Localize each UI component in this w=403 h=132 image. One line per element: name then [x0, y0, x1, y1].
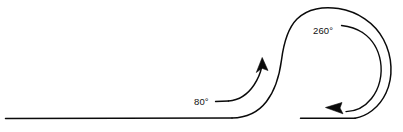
entry-angle-label: 80°: [194, 96, 209, 107]
loop-diagram-svg: 80° 260°: [0, 0, 403, 132]
diagram-canvas: 80° 260°: [0, 0, 403, 132]
loop-angle-arrowhead: [326, 103, 344, 114]
entry-angle-arrowhead: [256, 58, 268, 73]
main-loop-curve: [232, 8, 391, 118]
loop-angle-arrow-shaft: [346, 33, 381, 112]
loop-angle-label: 260°: [313, 25, 333, 36]
loop-angle-leader: [342, 26, 363, 33]
entry-angle-leader: [216, 101, 229, 102]
